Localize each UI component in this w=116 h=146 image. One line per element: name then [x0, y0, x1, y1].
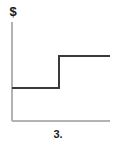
figure-container: $ 3. [0, 0, 116, 146]
plot-area [0, 0, 116, 128]
step-function-series [12, 56, 110, 88]
figure-caption: 3. [0, 128, 116, 140]
